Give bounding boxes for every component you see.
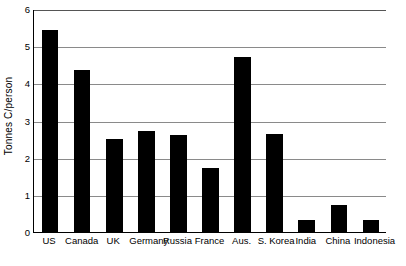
x-tick-label: Russia — [161, 236, 193, 246]
x-tick-label: France — [193, 236, 225, 246]
x-tick-label: Indonesia — [354, 236, 386, 246]
x-tick-label: Canada — [65, 236, 97, 246]
y-tick-label: 4 — [25, 80, 30, 90]
y-axis-title: Tonnes C/person — [2, 0, 16, 232]
bar — [266, 134, 283, 232]
bars — [34, 10, 386, 232]
bar — [170, 135, 187, 232]
bar — [74, 70, 91, 232]
x-tick-label: S. Korea — [258, 236, 290, 246]
x-tick-label: US — [33, 236, 65, 246]
bar — [106, 139, 123, 232]
bar-chart: Tonnes C/person 0123456 USCanadaUKGerman… — [0, 0, 406, 266]
bar — [202, 168, 219, 232]
bar — [298, 220, 315, 232]
bar — [234, 57, 251, 232]
bar — [138, 131, 155, 232]
y-tick-label: 3 — [25, 117, 30, 127]
y-tick-label: 1 — [25, 191, 30, 201]
bar — [42, 30, 59, 232]
bar — [331, 205, 348, 232]
y-tick-label: 0 — [25, 228, 30, 238]
x-tick-label: China — [322, 236, 354, 246]
x-tick-label: UK — [97, 236, 129, 246]
plot-area: 0123456 — [33, 10, 386, 233]
y-tick-label: 5 — [25, 42, 30, 52]
x-tick-label: Germany — [129, 236, 161, 246]
x-tick-label: India — [290, 236, 322, 246]
x-tick-label: Aus. — [226, 236, 258, 246]
y-tick-label: 2 — [25, 154, 30, 164]
y-tick-label: 6 — [25, 5, 30, 15]
bar — [363, 220, 380, 232]
